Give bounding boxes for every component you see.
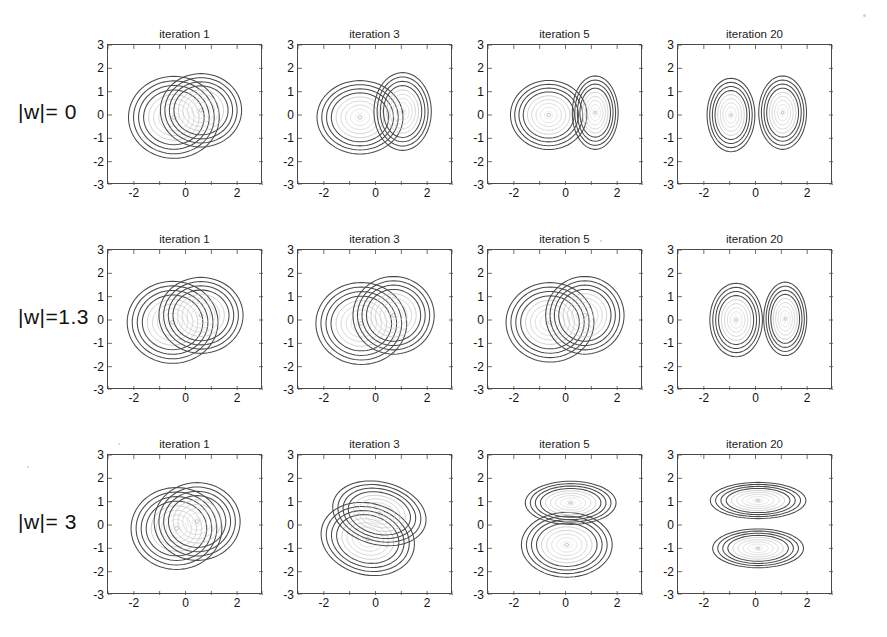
plot-axes: 3210-1-2-3-202 [107, 44, 262, 184]
y-tick-label: -3 [93, 383, 104, 397]
gaussian-component [759, 76, 807, 149]
x-tick-label: 0 [372, 391, 379, 405]
component-centre-marker [547, 113, 551, 116]
plot-axes: 3210-1-2-3-202 [487, 44, 642, 184]
contour-canvas [678, 250, 833, 390]
y-tick-label: 1 [287, 85, 294, 99]
contour-canvas [298, 45, 453, 185]
y-tick-label: -1 [663, 131, 674, 145]
y-tick-label: -1 [663, 336, 674, 350]
y-tick-label: 1 [97, 85, 104, 99]
y-tick-label: 2 [97, 61, 104, 75]
y-tick-label: -3 [283, 383, 294, 397]
component-centre-marker [756, 547, 760, 549]
y-tick-label: 3 [477, 38, 484, 52]
y-tick-label: 1 [97, 495, 104, 509]
y-tick-label: 2 [287, 61, 294, 75]
gaussian-component [764, 282, 807, 355]
contour-canvas [488, 250, 643, 390]
y-tick-label: -2 [663, 565, 674, 579]
gaussian-component [316, 282, 407, 364]
x-tick-label: -2 [318, 596, 329, 610]
plot-axes: 3210-1-2-3-202 [107, 454, 262, 594]
panel-title: iteration 20 [677, 438, 832, 450]
panel-title: iteration 1 [107, 28, 262, 40]
x-tick-label: -2 [318, 391, 329, 405]
y-tick-label: -1 [663, 541, 674, 555]
contour-canvas [108, 455, 263, 595]
scan-artifact [863, 14, 866, 17]
y-tick-label: -1 [473, 131, 484, 145]
y-tick-label: 3 [667, 448, 674, 462]
y-tick-label: 2 [667, 471, 674, 485]
y-tick-label: 3 [477, 448, 484, 462]
y-tick-label: -1 [93, 131, 104, 145]
y-tick-label: -3 [663, 178, 674, 192]
figure-canvas: |w|= 0iteration 13210-1-2-3-202iteration… [0, 0, 887, 637]
x-tick-label: 2 [424, 596, 431, 610]
y-tick-label: -2 [283, 360, 294, 374]
panel-title: iteration 5 [487, 438, 642, 450]
panel-title: iteration 5 [487, 233, 642, 245]
gaussian-component [131, 487, 222, 569]
y-tick-label: 1 [477, 495, 484, 509]
gaussian-component [506, 283, 594, 362]
contour-canvas [488, 45, 643, 185]
y-tick-label: 2 [97, 471, 104, 485]
x-tick-label: 2 [804, 186, 811, 200]
y-tick-label: -2 [283, 155, 294, 169]
gaussian-component [707, 78, 755, 151]
y-tick-label: 0 [287, 518, 294, 532]
y-tick-label: 0 [667, 313, 674, 327]
y-tick-label: 3 [287, 243, 294, 257]
tick-marks [108, 45, 263, 185]
y-tick-label: -1 [473, 336, 484, 350]
panel-title: iteration 3 [297, 438, 452, 450]
y-tick-label: -2 [663, 360, 674, 374]
x-tick-label: 2 [424, 391, 431, 405]
x-tick-label: 2 [424, 186, 431, 200]
scan-artifact [700, 455, 702, 457]
y-tick-label: 0 [477, 518, 484, 532]
gaussian-component [510, 80, 586, 149]
y-tick-label: -3 [473, 588, 484, 602]
y-tick-label: 3 [667, 243, 674, 257]
panel-title: iteration 3 [297, 28, 452, 40]
x-tick-label: -2 [128, 391, 139, 405]
x-tick-label: 2 [234, 391, 241, 405]
y-tick-label: 2 [287, 471, 294, 485]
y-tick-label: 0 [287, 313, 294, 327]
plot-axes: 3210-1-2-3-202 [677, 249, 832, 389]
y-tick-label: -3 [473, 383, 484, 397]
x-tick-label: 2 [614, 391, 621, 405]
plot-axes: 3210-1-2-3-202 [677, 44, 832, 184]
y-tick-label: -2 [93, 360, 104, 374]
y-tick-label: -1 [283, 541, 294, 555]
contour-canvas [298, 455, 453, 595]
y-tick-label: 0 [477, 108, 484, 122]
y-tick-label: -3 [93, 178, 104, 192]
x-tick-label: -2 [128, 596, 139, 610]
x-tick-label: -2 [698, 186, 709, 200]
y-tick-label: 0 [97, 108, 104, 122]
y-tick-label: 1 [477, 85, 484, 99]
plot-axes: 3210-1-2-3-202 [297, 44, 452, 184]
x-tick-label: -2 [318, 186, 329, 200]
y-tick-label: -3 [283, 178, 294, 192]
y-tick-label: -2 [473, 155, 484, 169]
y-tick-label: -2 [663, 155, 674, 169]
y-tick-label: -3 [93, 588, 104, 602]
y-tick-label: -3 [663, 383, 674, 397]
x-tick-label: 0 [562, 391, 569, 405]
y-tick-label: 3 [287, 448, 294, 462]
x-tick-label: 0 [182, 186, 189, 200]
y-tick-label: 2 [667, 266, 674, 280]
y-tick-label: 3 [97, 243, 104, 257]
component-centre-marker [199, 109, 203, 112]
plot-axes: 3210-1-2-3-202 [297, 249, 452, 389]
y-tick-label: 1 [477, 290, 484, 304]
gaussian-component [713, 529, 804, 568]
x-tick-label: -2 [508, 391, 519, 405]
y-tick-label: 3 [477, 243, 484, 257]
x-tick-label: 0 [372, 596, 379, 610]
